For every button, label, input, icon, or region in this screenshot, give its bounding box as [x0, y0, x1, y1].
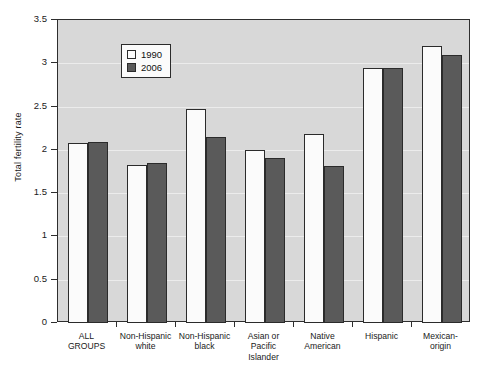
y-tick-label: 1 [0, 229, 47, 240]
x-axis-label-line: American [293, 341, 352, 351]
legend: 1990 2006 [121, 44, 171, 78]
x-tick-mark [234, 322, 235, 327]
bar-2006 [206, 137, 226, 323]
x-tick-mark [116, 322, 117, 327]
bar-1990 [127, 165, 147, 323]
bar-1990 [186, 109, 206, 323]
x-axis-label-6: Mexican-origin [411, 331, 470, 352]
x-axis-label-line: Native [293, 331, 352, 341]
legend-label-1990: 1990 [141, 49, 162, 60]
x-tick-mark [175, 322, 176, 327]
bar-1990 [422, 46, 442, 323]
legend-item: 2006 [127, 61, 162, 74]
plot-area: 1990 2006 [57, 19, 470, 322]
x-axis-label-4: NativeAmerican [293, 331, 352, 352]
x-axis-label-line: ALL [57, 331, 116, 341]
x-tick-mark [352, 322, 353, 327]
x-axis-label-line: Non-Hispanic [116, 331, 175, 341]
x-axis-label-line: Hispanic [352, 331, 411, 341]
bar-1990 [68, 143, 88, 323]
legend-swatch-1990-icon [127, 50, 136, 59]
y-tick-label: 2 [0, 143, 47, 154]
bar-2006 [147, 163, 167, 323]
bar-2006 [265, 158, 285, 323]
x-axis-label-line: Islander [234, 352, 293, 362]
bar-2006 [442, 55, 462, 323]
x-axis-label-0: ALLGROUPS [57, 331, 116, 352]
bar-2006 [383, 68, 403, 323]
y-tick-label: 3.5 [0, 13, 47, 24]
x-axis-label-1: Non-Hispanicwhite [116, 331, 175, 352]
gridline [58, 63, 469, 64]
x-axis-label-2: Non-Hispanicblack [175, 331, 234, 352]
y-tick-label: 2.5 [0, 100, 47, 111]
x-axis-label-3: Asian orPacificIslander [234, 331, 293, 362]
legend-label-2006: 2006 [141, 62, 162, 73]
x-axis-label-line: Mexican- [411, 331, 470, 341]
legend-swatch-2006-icon [127, 63, 136, 72]
y-tick-label: 1.5 [0, 186, 47, 197]
gridline [58, 107, 469, 108]
y-tick-label: 0.5 [0, 273, 47, 284]
bar-1990 [245, 150, 265, 323]
y-tick-label: 0 [0, 316, 47, 327]
x-axis-label-line: Asian or [234, 331, 293, 341]
bar-2006 [88, 142, 108, 323]
y-tick-mark [51, 322, 57, 323]
legend-item: 1990 [127, 48, 162, 61]
bar-2006 [324, 166, 344, 323]
y-tick-label: 3 [0, 56, 47, 67]
x-axis-label-5: Hispanic [352, 331, 411, 341]
x-axis-label-line: white [116, 341, 175, 351]
bar-chart: Total fertility rate 00.511.522.533.5 19… [0, 0, 481, 375]
x-tick-mark [411, 322, 412, 327]
x-axis-label-line: Pacific [234, 341, 293, 351]
bar-1990 [304, 134, 324, 323]
x-axis-label-line: Non-Hispanic [175, 331, 234, 341]
bar-1990 [363, 68, 383, 323]
x-axis-label-line: origin [411, 341, 470, 351]
x-axis-label-line: GROUPS [57, 341, 116, 351]
x-axis-label-line: black [175, 341, 234, 351]
x-tick-mark [293, 322, 294, 327]
